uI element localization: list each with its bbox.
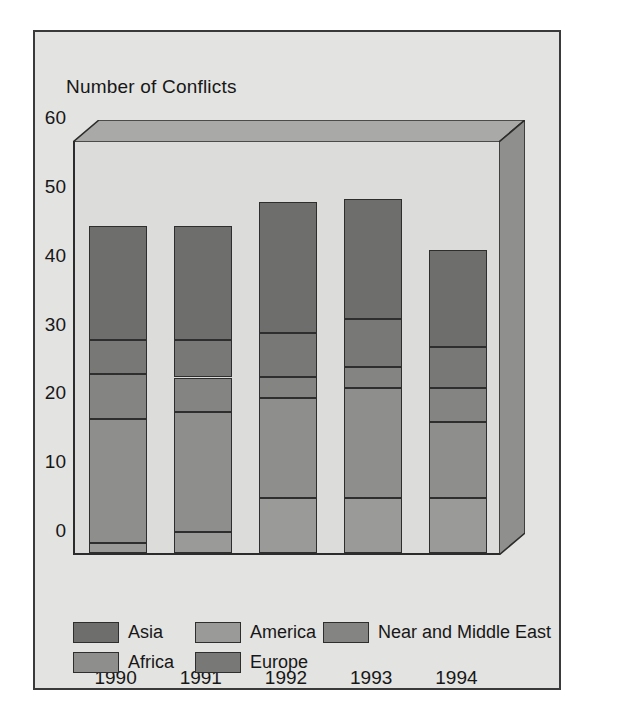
y-tick-label: 50 xyxy=(45,176,66,198)
y-tick-label: 0 xyxy=(55,520,66,542)
chart-figure: Number of Conflicts 0102030405060 199019… xyxy=(33,30,561,690)
legend-item[interactable]: Asia xyxy=(73,622,163,643)
bar-segment[interactable] xyxy=(259,333,317,378)
bar-segment[interactable] xyxy=(89,374,147,419)
bar-segment[interactable] xyxy=(344,367,402,388)
legend-swatch xyxy=(195,622,241,643)
bar-segment[interactable] xyxy=(344,199,402,319)
bar-segment[interactable] xyxy=(89,543,147,553)
stacked-bar[interactable] xyxy=(174,226,232,553)
bar-segment[interactable] xyxy=(89,340,147,374)
wall-top-3d xyxy=(73,120,525,142)
bar-segment[interactable] xyxy=(429,388,487,422)
y-tick-label: 60 xyxy=(45,107,66,129)
bar-segment[interactable] xyxy=(344,498,402,553)
bar-segment[interactable] xyxy=(259,377,317,398)
legend-swatch xyxy=(73,622,119,643)
stacked-bar[interactable] xyxy=(89,226,147,553)
legend-item[interactable]: Africa xyxy=(73,652,174,673)
chart-legend: AsiaAmericaNear and Middle EastAfricaEur… xyxy=(73,617,533,677)
bar-segment[interactable] xyxy=(429,422,487,498)
legend-label: Africa xyxy=(128,652,174,673)
bar-segment[interactable] xyxy=(89,226,147,340)
bar-segment[interactable] xyxy=(344,319,402,367)
y-tick-label: 40 xyxy=(45,245,66,267)
stacked-bar[interactable] xyxy=(429,250,487,553)
legend-item[interactable]: America xyxy=(195,622,316,643)
plot-area: 0102030405060 19901991199219931994 xyxy=(73,120,525,555)
legend-label: Europe xyxy=(250,652,308,673)
legend-label: Asia xyxy=(128,622,163,643)
bar-segment[interactable] xyxy=(174,412,232,532)
legend-item[interactable]: Europe xyxy=(195,652,308,673)
legend-row: AsiaAmericaNear and Middle East xyxy=(73,617,533,647)
legend-label: America xyxy=(250,622,316,643)
bar-segment[interactable] xyxy=(429,347,487,388)
y-tick-label: 20 xyxy=(45,382,66,404)
bar-segment[interactable] xyxy=(259,498,317,553)
bar-segment[interactable] xyxy=(174,226,232,340)
plot-face: 0102030405060 xyxy=(73,142,499,555)
bar-segment[interactable] xyxy=(429,250,487,346)
legend-swatch xyxy=(73,652,119,673)
bar-segment[interactable] xyxy=(429,498,487,553)
stacked-bar[interactable] xyxy=(259,202,317,553)
stacked-bar[interactable] xyxy=(344,199,402,553)
y-tick-label: 30 xyxy=(45,314,66,336)
legend-swatch xyxy=(195,652,241,673)
legend-row: AfricaEurope xyxy=(73,647,533,677)
legend-label: Near and Middle East xyxy=(378,622,551,643)
axis-title: Number of Conflicts xyxy=(66,76,237,98)
y-tick-label: 10 xyxy=(45,451,66,473)
legend-item[interactable]: Near and Middle East xyxy=(323,622,551,643)
bar-segment[interactable] xyxy=(174,378,232,412)
bar-segment[interactable] xyxy=(259,398,317,498)
bar-segment[interactable] xyxy=(259,202,317,333)
bar-segment[interactable] xyxy=(344,388,402,498)
wall-right-3d xyxy=(499,120,525,555)
bar-segment[interactable] xyxy=(174,532,232,553)
bar-segment[interactable] xyxy=(174,340,232,378)
legend-swatch xyxy=(323,622,369,643)
bar-segment[interactable] xyxy=(89,419,147,543)
